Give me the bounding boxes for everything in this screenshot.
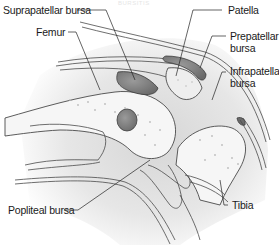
label-femur: Femur — [36, 26, 65, 38]
label-patella: Patella — [228, 4, 259, 16]
label-suprapatellar-bursa: Suprapatellar bursa — [3, 4, 91, 16]
popliteal-bursa-shape — [117, 109, 137, 131]
label-popliteal-bursa: Popliteal bursa — [8, 204, 74, 216]
label-infrapatellar-bursa-2: bursa — [230, 77, 255, 89]
label-prepatellar-bursa-2: bursa — [230, 42, 255, 54]
label-infrapatellar-bursa-1: Infrapatellar — [230, 65, 279, 77]
label-tibia: Tibia — [232, 199, 253, 211]
label-prepatellar-bursa-1: Prepatellar — [230, 30, 279, 42]
